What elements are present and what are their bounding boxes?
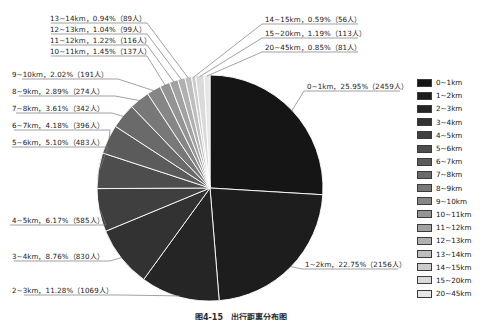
leader-line — [120, 295, 180, 296]
legend-swatch-icon — [417, 290, 432, 298]
leader-line — [194, 24, 262, 77]
legend-item-label: 14~15km — [436, 263, 471, 272]
callout-4-5km: 4~5km，6.17%（585人） — [12, 216, 104, 225]
legend-item-2-3km[interactable]: 2~3km — [417, 102, 481, 115]
callout-8-9km: 8~9km，2.89%（274人） — [12, 87, 104, 96]
legend-item-7-8km[interactable]: 7~8km — [417, 168, 481, 181]
legend-swatch-icon — [417, 145, 432, 153]
legend-swatch-icon — [417, 250, 432, 258]
legend-swatch-icon — [417, 158, 432, 166]
legend-item-label: 5~6km — [436, 144, 462, 153]
leader-line — [115, 96, 140, 101]
callout-10-11km: 10~11km，1.45%（137人） — [50, 47, 151, 56]
legend-item-20-45km[interactable]: 20~45km — [417, 287, 481, 300]
leader-line — [200, 38, 262, 77]
callout-9-10km: 9~10km，2.02%（191人） — [12, 70, 108, 79]
legend-item-label: 9~10km — [436, 197, 467, 206]
legend-swatch-icon — [417, 79, 432, 87]
figure-caption: 图4-15 出行距离分布图 — [0, 311, 482, 320]
legend-item-10-11km[interactable]: 10~11km — [417, 208, 481, 221]
pie-slices-group — [97, 75, 323, 301]
leader-line — [110, 257, 122, 261]
legend-item-label: 3~4km — [436, 118, 462, 127]
legend-item-label: 2~3km — [436, 104, 462, 113]
callout-5-6km: 5~6km，5.10%（483人） — [12, 138, 104, 147]
legend-swatch-icon — [417, 263, 432, 271]
legend-item-label: 6~7km — [436, 157, 462, 166]
callout-15-20km: 15~20km，1.19%（113人） — [265, 29, 366, 38]
legend-item-8-9km[interactable]: 8~9km — [417, 182, 481, 195]
legend-item-11-12km[interactable]: 11~12km — [417, 221, 481, 234]
callout-3-4km: 3~4km，8.76%（830人） — [12, 252, 104, 261]
legend-swatch-icon — [417, 197, 432, 205]
legend-item-14-15km[interactable]: 14~15km — [417, 261, 481, 274]
legend-item-6-7km[interactable]: 6~7km — [417, 155, 481, 168]
legend-item-label: 1~2km — [436, 91, 462, 100]
legend-item-label: 15~20km — [436, 276, 471, 285]
legend-item-label: 12~13km — [436, 236, 471, 245]
callout-11-12km: 11~12km，1.22%（116人） — [50, 36, 151, 45]
leader-line — [147, 45, 174, 82]
callout-6-7km: 6~7km，4.18%（396人） — [12, 121, 104, 130]
callout-13-14km: 13~14km，0.94%（89人） — [50, 14, 146, 23]
callout-12-13km: 12~13km，1.04%（99人） — [50, 25, 146, 34]
callout-1-2km: 1~2km，22.75%（2156人） — [305, 260, 406, 269]
leader-line — [112, 113, 124, 117]
legend-item-12-13km[interactable]: 12~13km — [417, 234, 481, 247]
leader-line — [147, 56, 165, 85]
legend-item-label: 11~12km — [436, 223, 471, 232]
legend-item-label: 4~5km — [436, 131, 462, 140]
callout-14-15km: 14~15km，0.59%（56人） — [265, 15, 361, 24]
legend-item-5-6km[interactable]: 5~6km — [417, 142, 481, 155]
callout-0-1km: 0~1km，25.95%（2459人） — [307, 82, 408, 91]
callout-7-8km: 7~8km，3.61%（342人） — [12, 104, 104, 113]
legend-item-13-14km[interactable]: 13~14km — [417, 247, 481, 260]
legend-swatch-icon — [417, 92, 432, 100]
legend-swatch-icon — [417, 224, 432, 232]
legend-swatch-icon — [417, 184, 432, 192]
legend-item-0-1km[interactable]: 0~1km — [417, 76, 481, 89]
legend-item-label: 0~1km — [436, 78, 462, 87]
legend-item-label: 10~11km — [436, 210, 471, 219]
legend-item-label: 8~9km — [436, 184, 462, 193]
legend-swatch-icon — [417, 210, 432, 218]
legend-item-1-2km[interactable]: 1~2km — [417, 89, 481, 102]
pie-slice-0-1km[interactable] — [210, 75, 323, 195]
leader-line — [118, 79, 154, 91]
leader-line — [147, 34, 182, 80]
legend-item-label: 7~8km — [436, 170, 462, 179]
legend-swatch-icon — [417, 171, 432, 179]
callout-20-45km: 20~45km，0.85%（81人） — [265, 43, 361, 52]
legend-swatch-icon — [417, 131, 432, 139]
legend-item-4-5km[interactable]: 4~5km — [417, 129, 481, 142]
leader-line — [290, 266, 302, 269]
legend-swatch-icon — [417, 237, 432, 245]
pie-chart-figure: 13~14km，0.94%（89人） 12~13km，1.04%（99人） 11… — [0, 0, 482, 320]
legend-swatch-icon — [417, 118, 432, 126]
legend-item-15-20km[interactable]: 15~20km — [417, 274, 481, 287]
legend-swatch-icon — [417, 105, 432, 113]
legend: 0~1km1~2km2~3km3~4km4~5km5~6km6~7km7~8km… — [417, 76, 481, 300]
legend-item-label: 13~14km — [436, 250, 471, 259]
leader-line — [292, 91, 305, 111]
leader-line — [207, 52, 262, 76]
pie-slice-1-2km[interactable] — [210, 188, 323, 301]
leader-line — [147, 23, 188, 78]
legend-item-3-4km[interactable]: 3~4km — [417, 116, 481, 129]
legend-item-label: 20~45km — [436, 289, 471, 298]
legend-swatch-icon — [417, 276, 432, 284]
legend-item-9-10km[interactable]: 9~10km — [417, 195, 481, 208]
callout-2-3km: 2~3km，11.28%（1069人） — [12, 286, 113, 295]
